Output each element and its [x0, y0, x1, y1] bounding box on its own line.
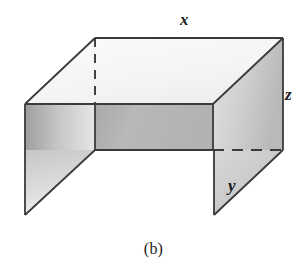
dimension-label-z: z: [285, 86, 292, 103]
figure-caption: (b): [0, 240, 307, 258]
dimension-label-x: x: [180, 11, 189, 28]
open-box-diagram: [0, 0, 307, 277]
back-face: [95, 104, 213, 150]
figure-container: x z y (b): [0, 0, 307, 277]
left-face-upper: [25, 104, 95, 150]
dimension-label-y: y: [228, 177, 236, 194]
